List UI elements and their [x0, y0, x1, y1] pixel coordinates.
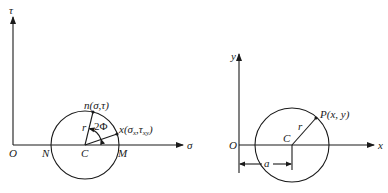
mohr-circle-diagram: τ σ O N C M r 2Φ n(σ,τ) x(σx,τxy): [9, 4, 193, 179]
sigma-axis-label: σ: [187, 139, 193, 151]
x-axis-label: x: [377, 139, 383, 151]
xy-circle-diagram: y x O C r P(x, y) a: [229, 50, 383, 182]
origin-label: O: [229, 139, 237, 151]
offset-label: a: [264, 157, 270, 169]
point-p-label: P(x, y): [319, 108, 350, 121]
center-label: C: [81, 147, 89, 159]
m-intersection-label: M: [117, 147, 128, 159]
tau-axis-label: τ: [9, 4, 14, 16]
point-n-label: n(σ,τ): [84, 99, 109, 112]
n-intersection-label: N: [41, 147, 50, 159]
angle-label: 2Φ: [94, 120, 108, 132]
diagram-canvas: τ σ O N C M r 2Φ n(σ,τ) x(σx,τxy) y x O …: [0, 0, 388, 193]
point-x-label: x(σx,τxy): [118, 123, 153, 137]
origin-label: O: [9, 147, 17, 159]
radius-to-p: [292, 118, 316, 145]
point-p: [314, 116, 317, 119]
y-axis-label: y: [230, 50, 236, 62]
radius-label: r: [82, 121, 87, 133]
radius-label: r: [298, 120, 303, 132]
center-label: C: [283, 132, 291, 144]
